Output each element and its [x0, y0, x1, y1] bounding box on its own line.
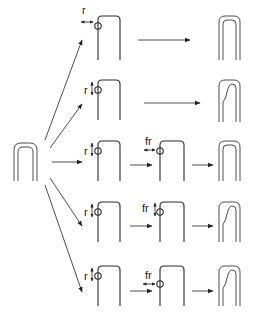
row-1-step-1-shape: r — [81, 4, 120, 60]
process-diagram: r r r — [0, 0, 258, 316]
label-r: r — [84, 270, 88, 282]
label-fr: fr — [142, 202, 149, 214]
row-1: r — [81, 4, 240, 60]
row-3-step-2-shape: fr — [144, 135, 184, 181]
label-r: r — [84, 145, 88, 157]
row-3-step-1-shape: r — [84, 141, 120, 181]
row-5-final-shape — [219, 266, 240, 306]
row-2-step-1-shape: r — [84, 80, 120, 120]
row-2: r — [84, 80, 240, 122]
source-hairpin-shape — [14, 143, 37, 181]
row-3: r fr — [84, 135, 240, 181]
label-fr: fr — [145, 269, 152, 281]
row-3-final-shape — [219, 141, 240, 181]
row-4-step-2-shape: fr — [142, 202, 184, 242]
label-r: r — [82, 4, 86, 16]
row-5-step-1-shape: r — [84, 266, 120, 306]
row-5-step-2-shape: fr — [143, 266, 184, 306]
row-2-final-shape — [219, 80, 240, 122]
fan-out-arrows — [45, 40, 82, 292]
label-fr: fr — [145, 135, 152, 147]
row-4-final-shape — [219, 202, 240, 242]
row-5: r fr — [84, 266, 240, 306]
row-4-step-1-shape: r — [84, 202, 120, 242]
label-r: r — [84, 206, 88, 218]
row-4: r fr — [84, 202, 240, 242]
row-1-final-shape — [219, 16, 240, 60]
label-r: r — [84, 84, 88, 96]
